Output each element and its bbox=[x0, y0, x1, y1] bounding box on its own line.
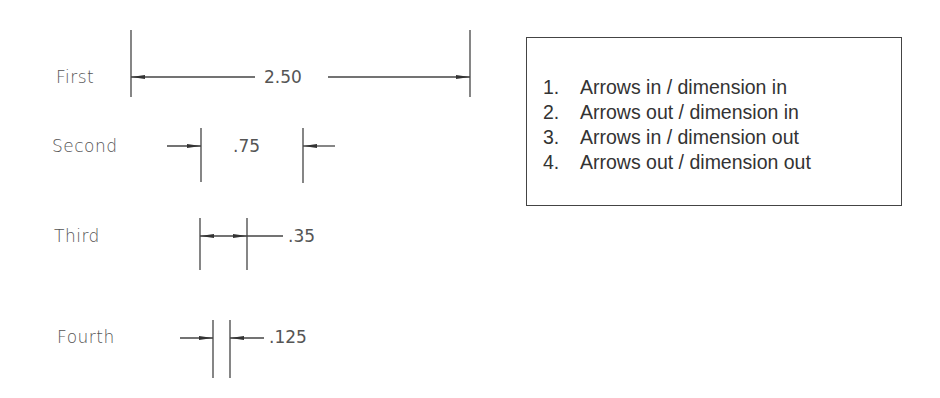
arrowhead-icon bbox=[233, 234, 247, 238]
legend-item: 2.Arrows out / dimension in bbox=[543, 100, 811, 125]
legend-box: 1.Arrows in / dimension in 2.Arrows out … bbox=[526, 37, 902, 206]
dimension-value-fourth: .125 bbox=[266, 329, 310, 346]
dimension-value-third: .35 bbox=[285, 228, 318, 245]
legend-item: 1.Arrows in / dimension in bbox=[543, 75, 811, 100]
legend-item-number: 3. bbox=[543, 125, 580, 150]
legend-item-text: Arrows out / dimension out bbox=[580, 151, 811, 173]
arrowhead-icon bbox=[303, 144, 317, 148]
legend-item: 4.Arrows out / dimension out bbox=[543, 150, 811, 175]
fourth-dimension bbox=[180, 320, 264, 378]
arrowhead-icon bbox=[131, 75, 145, 79]
row-label-second: Second bbox=[52, 138, 118, 155]
legend-item-text: Arrows in / dimension out bbox=[580, 126, 799, 148]
legend-item: 3.Arrows in / dimension out bbox=[543, 125, 811, 150]
third-dimension bbox=[200, 218, 283, 270]
row-label-third: Third bbox=[54, 228, 100, 245]
dimensioning-diagram: First Second Third Fourth 2.50 .75 .35 .… bbox=[0, 0, 940, 398]
arrowhead-icon bbox=[187, 144, 201, 148]
legend-item-number: 4. bbox=[543, 150, 580, 175]
legend-item-number: 2. bbox=[543, 100, 580, 125]
dimension-value-first: 2.50 bbox=[261, 69, 305, 86]
row-label-first: First bbox=[56, 69, 94, 86]
row-label-fourth: Fourth bbox=[57, 329, 115, 346]
arrowhead-icon bbox=[200, 234, 214, 238]
legend-item-text: Arrows in / dimension in bbox=[580, 76, 787, 98]
legend-list: 1.Arrows in / dimension in 2.Arrows out … bbox=[543, 75, 811, 175]
legend-item-number: 1. bbox=[543, 75, 580, 100]
dimension-value-second: .75 bbox=[230, 138, 263, 155]
arrowhead-icon bbox=[456, 75, 470, 79]
arrowhead-icon bbox=[230, 336, 244, 340]
arrowhead-icon bbox=[199, 336, 213, 340]
legend-item-text: Arrows out / dimension in bbox=[580, 101, 799, 123]
